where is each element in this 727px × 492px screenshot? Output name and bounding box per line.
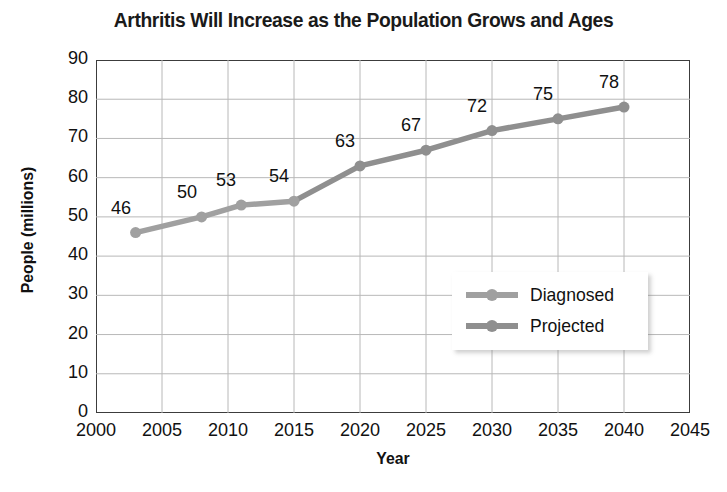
legend: Diagnosed Projected <box>452 272 648 350</box>
y-tick-10: 10 <box>8 361 88 383</box>
data-series <box>96 60 690 413</box>
legend-swatch-projected <box>466 317 518 335</box>
x-tick-2045: 2045 <box>650 419 727 441</box>
point-label-2035: 75 <box>515 83 572 105</box>
y-tick-70: 70 <box>8 125 88 147</box>
legend-label-projected: Projected <box>530 315 604 337</box>
y-tick-80: 80 <box>8 86 88 108</box>
point-label-2015: 54 <box>251 165 308 187</box>
line-chart: Arthritis Will Increase as the Populatio… <box>0 0 727 492</box>
y-axis-title: People (millions) <box>18 146 38 313</box>
legend-item-projected[interactable]: Projected <box>466 311 608 341</box>
point-label-2020: 63 <box>317 130 374 152</box>
legend-item-diagnosed[interactable]: Diagnosed <box>466 280 618 310</box>
point-label-2025: 67 <box>383 114 440 136</box>
point-label-2011: 53 <box>198 169 255 191</box>
y-tick-90: 90 <box>8 47 88 69</box>
x-axis-title: Year <box>117 449 669 469</box>
point-label-2030: 72 <box>449 95 506 117</box>
point-label-2040: 78 <box>581 71 638 93</box>
y-tick-20: 20 <box>8 322 88 344</box>
point-label-2003: 46 <box>92 197 149 219</box>
legend-swatch-diagnosed <box>466 286 518 304</box>
chart-title: Arthritis Will Increase as the Populatio… <box>22 8 705 32</box>
legend-label-diagnosed: Diagnosed <box>530 284 614 306</box>
